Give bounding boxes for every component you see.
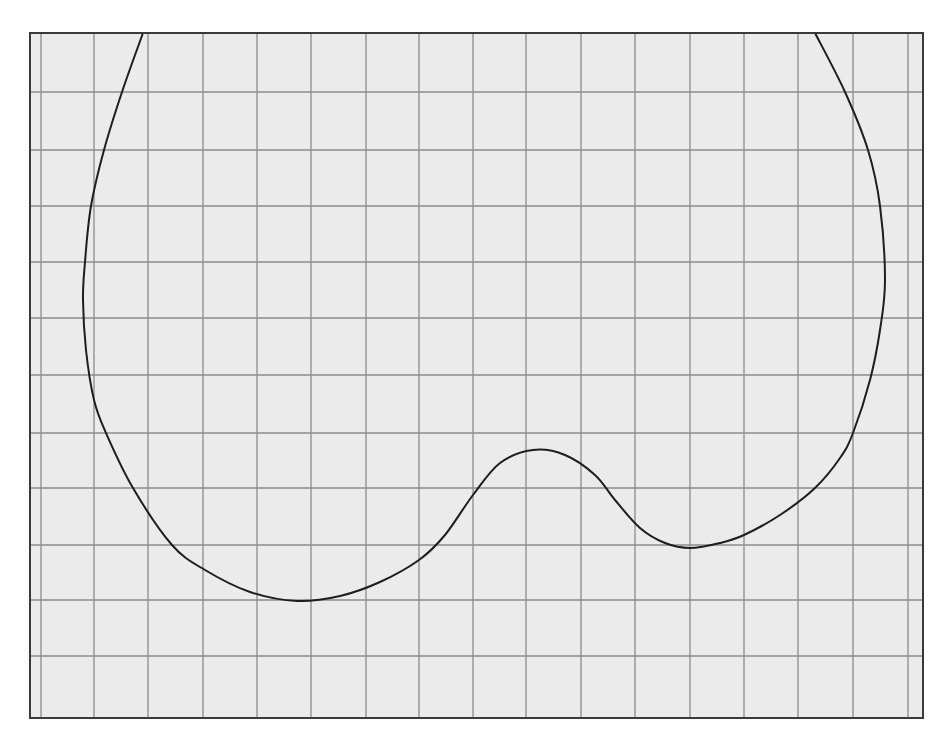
grid-chart xyxy=(0,0,944,743)
